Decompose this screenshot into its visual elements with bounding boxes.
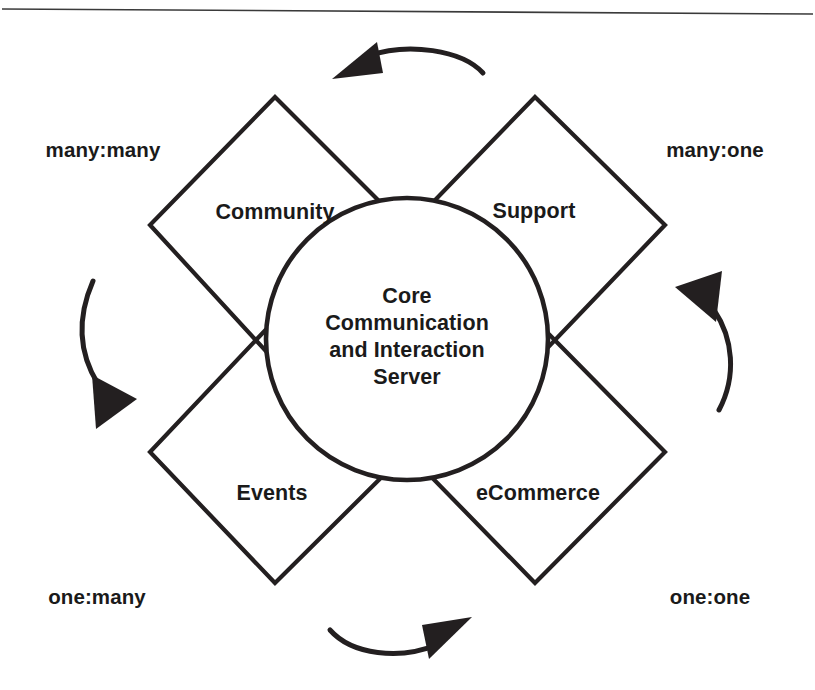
cardinality-label-one-many: one:many [48,585,146,609]
cardinality-label-many-many: many:many [46,138,161,162]
quadrant-label-ecommerce: eCommerce [476,481,600,506]
quadrant-label-support: Support [492,199,575,224]
diagram-canvas: Community Support Events eCommerce many:… [0,0,815,690]
left-arrow-curve [82,281,98,384]
core-label-line-1: Core [325,283,489,310]
quadrant-label-events: Events [236,481,307,506]
bottom-arrow-head-icon [422,617,472,659]
core-label-line-4: Server [325,364,489,391]
top-rule-line [2,9,813,14]
right-arrow-head-icon [675,271,722,322]
top-arrow-head-icon [332,42,383,79]
top-arrow-curve [368,49,483,73]
left-arrow [82,281,137,429]
top-arrow [332,42,483,79]
bottom-arrow [330,617,472,659]
right-arrow-curve [714,310,731,410]
bottom-arrow-curve [330,630,436,653]
quadrant-label-community: Community [215,200,334,225]
right-arrow [675,271,731,410]
core-label-line-3: and Interaction [325,337,489,364]
left-arrow-head-icon [92,375,137,429]
core-server-label: Core Communication and Interaction Serve… [325,283,489,391]
cardinality-label-one-one: one:one [670,585,750,609]
core-label-line-2: Communication [325,310,489,337]
cardinality-label-many-one: many:one [666,138,764,162]
